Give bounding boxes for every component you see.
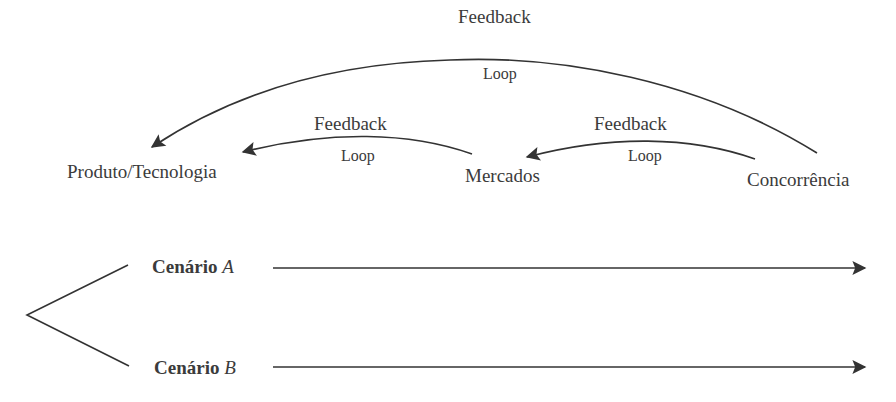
scenario-a-letter: A xyxy=(222,256,234,277)
loop-label-left-bottom: Loop xyxy=(341,148,375,164)
loop-label-large-bottom: Loop xyxy=(483,66,517,82)
loop-label-right-top: Feedback xyxy=(594,114,667,133)
scenario-b-prefix: Cenário xyxy=(154,357,219,378)
node-mercados: Mercados xyxy=(465,166,540,185)
node-produto-tecnologia: Produto/Tecnologia xyxy=(67,162,217,181)
scenario-bracket xyxy=(27,265,129,366)
scenario-b-letter: B xyxy=(224,357,236,378)
node-concorrencia: Concorrência xyxy=(747,170,849,189)
loop-label-large-top: Feedback xyxy=(458,7,531,26)
scenario-a-label: Cenário A xyxy=(152,257,234,276)
diagram-canvas xyxy=(0,0,896,402)
scenario-a-prefix: Cenário xyxy=(152,256,217,277)
loop-label-right-bottom: Loop xyxy=(628,148,662,164)
scenario-b-label: Cenário B xyxy=(154,358,236,377)
loop-label-left-top: Feedback xyxy=(314,114,387,133)
